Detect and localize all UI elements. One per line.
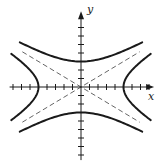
x-axis-label: x xyxy=(148,90,154,103)
axes xyxy=(10,11,155,160)
y-axis-arrow-icon xyxy=(78,11,84,19)
plot-area xyxy=(0,0,165,168)
y-axis-label: y xyxy=(87,3,93,16)
hyperbola-diagram: y x xyxy=(0,0,165,168)
